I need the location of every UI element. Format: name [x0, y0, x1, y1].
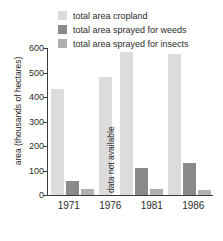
bar-group-1971 [48, 48, 96, 195]
bar-group-1981 [117, 48, 165, 195]
y-tick-mark-200 [43, 146, 47, 147]
x-axis-tick-labels: 1971 1976 1981 1986 [48, 200, 214, 211]
bar-insects-1981 [150, 189, 163, 195]
bar-chart: total area cropland total area sprayed f… [0, 0, 223, 241]
y-tick-mark-0 [43, 195, 47, 196]
y-tick-500: 500 [29, 68, 44, 77]
x-tick-1986: 1986 [173, 200, 215, 211]
chart-axes: data not available [47, 48, 213, 196]
y-tick-200: 200 [29, 142, 44, 151]
y-tick-mark-300 [43, 122, 47, 123]
bar-insects-1971 [81, 189, 94, 195]
y-axis-tick-labels: 600 500 400 300 200 100 0 [18, 48, 44, 196]
bar-group-1976: data not available [96, 48, 117, 195]
x-axis-line [47, 195, 213, 196]
chart-legend: total area cropland total area sprayed f… [58, 10, 189, 49]
y-tick-mark-400 [43, 97, 47, 98]
y-tick-400: 400 [29, 93, 44, 102]
legend-swatch-cropland [58, 11, 67, 20]
y-tick-600: 600 [29, 44, 44, 53]
bar-cropland-1981 [120, 52, 133, 195]
bar-cropland-1971 [51, 89, 64, 195]
y-tick-mark-600 [43, 48, 47, 49]
y-tick-100: 100 [29, 166, 44, 175]
y-tick-mark-500 [43, 73, 47, 74]
x-tick-1981: 1981 [131, 200, 173, 211]
plot-area: area (thousands of hectares) 600 500 400… [0, 48, 223, 241]
bar-cropland-1986 [168, 54, 181, 195]
legend-item-cropland: total area cropland [58, 10, 189, 21]
bar-weeds-1971 [66, 181, 79, 195]
legend-item-weeds: total area sprayed for weeds [58, 24, 189, 35]
legend-label-cropland: total area cropland [73, 11, 148, 21]
y-tick-300: 300 [29, 117, 44, 126]
bar-weeds-1981 [135, 168, 148, 195]
bar-weeds-1986 [183, 163, 196, 195]
bar-groups: data not available [48, 48, 213, 195]
y-tick-mark-100 [43, 171, 47, 172]
legend-label-weeds: total area sprayed for weeds [73, 25, 187, 35]
bar-insects-1986 [198, 190, 211, 195]
data-not-available-label: data not available [106, 126, 116, 193]
legend-swatch-insects [58, 39, 67, 48]
legend-swatch-weeds [58, 25, 67, 34]
x-tick-1971: 1971 [48, 200, 90, 211]
legend-label-insects: total area sprayed for insects [73, 39, 189, 49]
x-tick-1976: 1976 [90, 200, 132, 211]
bar-group-1986 [165, 48, 213, 195]
